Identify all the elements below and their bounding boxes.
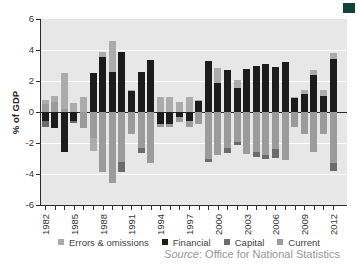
bar-segment-errors-omissions-1987 — [90, 138, 97, 150]
x-tick-mark — [93, 206, 94, 210]
bar-segment-current-1987 — [90, 112, 97, 138]
bar-segment-financial-1994 — [157, 112, 164, 124]
bar-segment-current-1994 — [157, 124, 164, 127]
bar-segment-current-1992 — [138, 112, 145, 148]
bar-segment-financial-1982 — [42, 112, 49, 121]
bar-segment-current-1997 — [186, 121, 193, 126]
y-tick-label: -6 — [16, 200, 34, 210]
y-tick-label: 0 — [16, 107, 34, 117]
bar-segment-capital-2012 — [330, 163, 337, 171]
x-tick-label: 1985 — [68, 210, 79, 240]
bar-segment-current-1996 — [176, 117, 183, 122]
bar-segment-financial-2007 — [282, 62, 289, 112]
bar-segment-financial-1992 — [138, 72, 145, 112]
bar-segment-current-1983 — [51, 102, 58, 112]
bar-segment-capital-1990 — [118, 162, 125, 171]
bar-segment-errors-omissions-1995 — [166, 97, 173, 113]
bar-segment-current-1991 — [128, 112, 135, 134]
bar-segment-current-1988 — [99, 112, 106, 172]
bar-segment-errors-omissions-1984 — [61, 73, 68, 109]
x-tick-mark — [256, 206, 257, 210]
legend-label: Capital — [235, 237, 265, 248]
bar-segment-current-2001 — [224, 112, 231, 148]
bar-segment-current-2010 — [310, 112, 317, 152]
bar-segment-errors-omissions-1983 — [51, 96, 58, 102]
y-tick-label: 2 — [16, 76, 34, 86]
bar-segment-current-2003 — [243, 112, 250, 154]
x-tick-mark — [323, 206, 324, 210]
gridline — [41, 174, 347, 175]
bar-segment-capital-1985 — [70, 121, 77, 123]
legend-swatch — [162, 239, 168, 245]
legend-swatch — [224, 239, 230, 245]
bar-segment-errors-omissions-2002 — [234, 80, 241, 88]
y-tick-mark — [36, 81, 40, 82]
x-tick-label: 1994 — [155, 210, 166, 240]
bar-segment-current-2004 — [253, 112, 260, 152]
legend-item-financial: Financial — [162, 237, 211, 248]
bar-segment-financial-1999 — [205, 61, 212, 112]
x-tick-mark — [151, 206, 152, 210]
gridline — [41, 81, 347, 82]
gridline — [41, 50, 347, 51]
bar-segment-errors-omissions-1986 — [80, 97, 87, 112]
legend-swatch — [277, 239, 283, 245]
bar-segment-current-1982 — [42, 104, 49, 112]
legend-label: Errors & omissions — [69, 237, 149, 248]
bar-segment-capital-2006 — [272, 149, 279, 158]
bar-segment-financial-2006 — [272, 67, 279, 112]
bar-segment-current-1999 — [205, 112, 212, 159]
x-tick-mark — [122, 206, 123, 210]
bar-segment-current-1989 — [109, 112, 116, 183]
bar-segment-current-1990 — [118, 112, 125, 162]
bar-segment-current-2000 — [214, 112, 221, 155]
legend-label: Current — [288, 237, 320, 248]
y-tick-mark — [36, 174, 40, 175]
bar-segment-current-2011 — [320, 112, 327, 134]
balance-of-payments-figure: % of GDP 6420-2-4-6 19821985198819911994… — [0, 0, 357, 270]
bar-segment-errors-omissions-2010 — [310, 70, 317, 75]
legend-item-capital: Capital — [224, 237, 265, 248]
bar-segment-financial-1995 — [166, 112, 173, 124]
bar-segment-financial-1991 — [128, 91, 135, 112]
bar-segment-errors-omissions-1997 — [186, 97, 193, 112]
bar-segment-financial-1998 — [195, 101, 202, 112]
x-tick-label: 2000 — [212, 210, 223, 240]
y-tick-label: 6 — [16, 14, 34, 24]
x-tick-mark — [141, 206, 142, 210]
x-tick-mark — [285, 206, 286, 210]
legend-item-current: Current — [277, 237, 320, 248]
bar-segment-errors-omissions-1996 — [176, 102, 183, 112]
bar-segment-financial-2010 — [310, 75, 317, 112]
bar-segment-capital-2001 — [224, 148, 231, 153]
x-tick-mark — [179, 206, 180, 210]
source-line: Source: Office for National Statistics — [164, 248, 340, 260]
x-tick-label: 2003 — [241, 210, 252, 240]
bar-segment-capital-2004 — [253, 152, 260, 157]
x-tick-label: 2009 — [299, 210, 310, 240]
bar-segment-current-1998 — [195, 112, 202, 124]
y-tick-label: -4 — [16, 169, 34, 179]
bar-segment-errors-omissions-1989 — [109, 41, 116, 71]
bar-segment-current-1993 — [147, 112, 154, 163]
legend-label: Financial — [173, 237, 211, 248]
bar-segment-financial-2002 — [234, 88, 241, 112]
bar-segment-financial-1988 — [99, 57, 106, 112]
bar-segment-financial-1984 — [61, 112, 68, 152]
x-tick-mark — [55, 206, 56, 210]
bar-segment-financial-2008 — [291, 97, 298, 112]
bar-segment-errors-omissions-1991 — [128, 90, 135, 91]
y-tick-label: -2 — [16, 138, 34, 148]
bar-segment-current-2007 — [282, 112, 289, 160]
x-tick-label: 1982 — [40, 210, 51, 240]
x-tick-label: 1991 — [126, 210, 137, 240]
bar-segment-capital-1999 — [205, 159, 212, 162]
bar-segment-errors-omissions-1985 — [70, 103, 77, 112]
x-tick-mark — [227, 206, 228, 210]
x-tick-label: 1997 — [184, 210, 195, 240]
bar-segment-financial-1989 — [109, 72, 116, 112]
bar-segment-current-2012 — [330, 112, 337, 163]
bar-segment-financial-2004 — [253, 66, 260, 113]
legend-item-errors-omissions: Errors & omissions — [58, 237, 149, 248]
bar-segment-financial-1983 — [51, 112, 58, 128]
